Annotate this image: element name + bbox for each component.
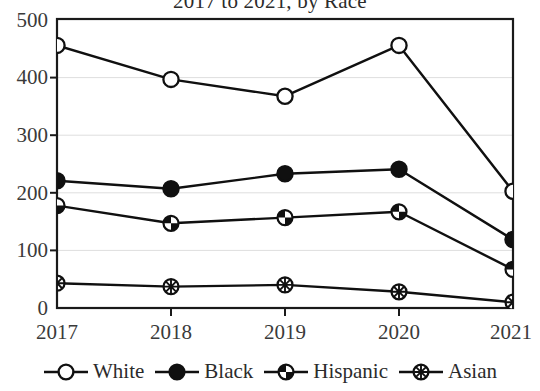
x-tick-label-2021: 2021: [466, 322, 540, 343]
x-tick-label-2018: 2018: [126, 322, 216, 343]
legend-item-asian[interactable]: Asian: [393, 361, 502, 382]
series-black: [49, 162, 520, 248]
x-tick-label-2017: 2017: [12, 322, 102, 343]
half-circle-marker-icon: [263, 362, 309, 382]
chart-legend: White Black: [0, 352, 540, 391]
open-circle-marker-icon: [43, 362, 89, 382]
series-asian: [50, 276, 521, 310]
y-tick-label-200: 200: [0, 183, 48, 204]
line-chart: 2017 to 2021, by Race: [0, 0, 540, 391]
y-tick-label-300: 300: [0, 125, 48, 146]
series-hispanic: [50, 198, 521, 277]
y-tick-label-500: 500: [0, 10, 48, 31]
legend-label-hispanic: Hispanic: [313, 361, 388, 382]
y-tick-label-400: 400: [0, 67, 48, 88]
x-tick-label-2019: 2019: [240, 322, 330, 343]
crossed-circle-marker-icon: [398, 362, 444, 382]
x-tick-label-2020: 2020: [354, 322, 444, 343]
plot-frame: [57, 19, 513, 308]
legend-label-white: White: [93, 361, 144, 382]
legend-label-asian: Asian: [448, 361, 497, 382]
legend-item-hispanic[interactable]: Hispanic: [258, 361, 393, 382]
legend-item-white[interactable]: White: [38, 361, 149, 382]
legend-label-black: Black: [204, 361, 253, 382]
plot-area: [0, 0, 540, 352]
legend-item-black[interactable]: Black: [149, 361, 258, 382]
filled-circle-marker-icon: [154, 362, 200, 382]
x-axis-ticks: [171, 308, 399, 316]
y-tick-label-100: 100: [0, 240, 48, 261]
y-tick-label-0: 0: [0, 298, 48, 319]
